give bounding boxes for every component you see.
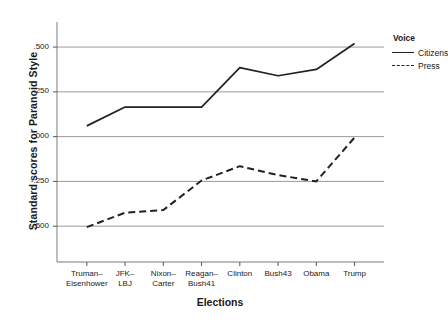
y-tick-label: -.500 xyxy=(9,222,49,230)
x-axis-title: Elections xyxy=(55,296,385,308)
x-tick-marks xyxy=(87,262,355,266)
y-tick-marks xyxy=(53,47,57,226)
legend-title: Voice xyxy=(392,33,448,43)
gridlines xyxy=(57,47,384,226)
x-tick-label-line: Bush41 xyxy=(171,279,233,289)
y-tick-label: .000 xyxy=(9,132,49,140)
legend: Voice CitizensPress xyxy=(392,33,448,73)
legend-entry-citizens[interactable]: Citizens xyxy=(392,47,448,59)
legend-label: Citizens xyxy=(418,48,448,58)
x-tick-label: Trump xyxy=(324,269,386,279)
y-tick-label: .500 xyxy=(9,43,49,51)
legend-key-solid-line-icon xyxy=(392,48,414,58)
data-series xyxy=(87,43,355,227)
series-line-citizens xyxy=(87,43,355,125)
x-tick-label-line: Trump xyxy=(324,269,386,279)
legend-key-dashed-line-icon xyxy=(392,61,414,71)
y-tick-label: .250 xyxy=(9,87,49,95)
legend-entries: CitizensPress xyxy=(392,47,448,72)
legend-label: Press xyxy=(418,61,440,71)
y-tick-label: -.250 xyxy=(9,177,49,185)
legend-entry-press[interactable]: Press xyxy=(392,60,448,72)
series-line-press xyxy=(87,138,355,228)
